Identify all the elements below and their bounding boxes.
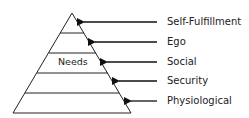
level-label-self-fulfillment: Self-Fulfillment [167,16,241,28]
level-label-ego: Ego [167,36,186,48]
needs-label: Needs [58,56,88,67]
level-label-physiological: Physiological [167,95,232,107]
level-label-security: Security [167,75,208,87]
level-label-social: Social [167,56,197,68]
